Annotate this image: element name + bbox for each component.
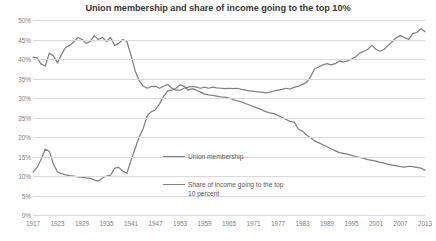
x-axis-tick-label: 1947 — [148, 220, 162, 227]
y-axis-tick-label: 45% — [1, 36, 31, 43]
gridline — [33, 118, 425, 119]
y-axis-tick-label: 30% — [1, 95, 31, 102]
y-axis: 50%45%40%35%30%25%20%15%10%5%0% — [0, 20, 31, 215]
gridline — [33, 176, 425, 177]
legend-line-icon — [163, 184, 185, 185]
x-axis-tick-label: 1977 — [271, 220, 285, 227]
legend-entry-income-share: Share of income going to the top 10 perc… — [163, 180, 284, 198]
x-axis-tick-label: 1941 — [124, 220, 138, 227]
legend-line-icon — [163, 156, 185, 157]
series-line-union-membership — [33, 85, 425, 181]
x-axis-tick-label: 1995 — [344, 220, 358, 227]
x-axis-tick-label: 1935 — [99, 220, 113, 227]
x-axis-tick-label: 1959 — [197, 220, 211, 227]
legend-entry-union-membership: Union membership — [163, 152, 243, 161]
gridline — [33, 59, 425, 60]
chart-container: Union membership and share of income goi… — [0, 0, 436, 241]
gridline — [33, 98, 425, 99]
x-axis-tick-label: 1965 — [222, 220, 236, 227]
y-axis-tick-label: 20% — [1, 134, 31, 141]
x-axis-tick-label: 2007 — [393, 220, 407, 227]
x-axis-tick-label: 1953 — [173, 220, 187, 227]
chart-title: Union membership and share of income goi… — [0, 3, 436, 13]
y-axis-tick-label: 15% — [1, 153, 31, 160]
series-line-share-of-income-going-to-the-top-10-percent — [33, 29, 425, 93]
y-axis-tick-label: 25% — [1, 114, 31, 121]
legend-label-income-share: Share of income going to the top 10 perc… — [188, 180, 284, 198]
x-axis-tick-label: 2001 — [369, 220, 383, 227]
x-axis-tick-label: 1989 — [320, 220, 334, 227]
gridline — [33, 137, 425, 138]
x-axis-tick-label: 1971 — [246, 220, 260, 227]
gridline — [33, 40, 425, 41]
x-axis-tick-label: 1923 — [50, 220, 64, 227]
y-axis-tick-label: 35% — [1, 75, 31, 82]
x-axis: 1917192319291935194119471953195919651971… — [33, 217, 425, 231]
gridline — [33, 215, 425, 216]
gridline — [33, 79, 425, 80]
gridline — [33, 20, 425, 21]
x-axis-tick-label: 2013 — [418, 220, 432, 227]
y-axis-tick-label: 0% — [1, 212, 31, 219]
y-axis-tick-label: 40% — [1, 56, 31, 63]
y-axis-tick-label: 5% — [1, 192, 31, 199]
y-axis-tick-label: 10% — [1, 173, 31, 180]
x-axis-tick-label: 1929 — [75, 220, 89, 227]
y-axis-tick-label: 50% — [1, 17, 31, 24]
legend-label-union-membership: Union membership — [188, 152, 243, 161]
x-axis-tick-label: 1983 — [295, 220, 309, 227]
x-axis-tick-label: 1917 — [26, 220, 40, 227]
